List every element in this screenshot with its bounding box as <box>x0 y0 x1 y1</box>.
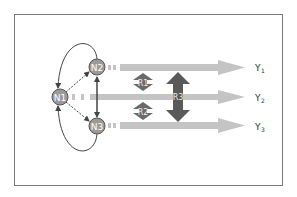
output-arrow-y2 <box>72 90 245 104</box>
relation-r2-label: R2 <box>138 108 149 117</box>
output-label-y2: Y 2 <box>254 93 265 104</box>
svg-text:Y: Y <box>254 122 261 132</box>
svg-text:2: 2 <box>261 97 265 104</box>
svg-text:3: 3 <box>261 126 265 133</box>
edge-n1-n2-dashed <box>66 72 89 92</box>
relation-r1-label: R1 <box>138 79 149 88</box>
node-n2: N2 <box>89 59 105 75</box>
node-n3: N3 <box>89 118 105 134</box>
node-n3-label: N3 <box>91 122 103 132</box>
network-diagram: N1 N2 N3 R1 R2 R3 Y 1 Y 2 Y 3 <box>0 0 297 197</box>
node-n1-label: N1 <box>54 93 66 103</box>
node-n2-label: N2 <box>91 63 103 73</box>
svg-text:Y: Y <box>254 63 261 73</box>
node-n1: N1 <box>52 89 68 105</box>
svg-text:Y: Y <box>254 93 261 103</box>
relation-r3-label: R3 <box>173 93 184 102</box>
svg-text:1: 1 <box>261 67 265 74</box>
edge-n1-n3-dashed <box>66 102 89 121</box>
output-arrow-y1 <box>108 60 245 75</box>
output-label-y1: Y 1 <box>254 63 265 74</box>
output-label-y3: Y 3 <box>254 122 265 133</box>
